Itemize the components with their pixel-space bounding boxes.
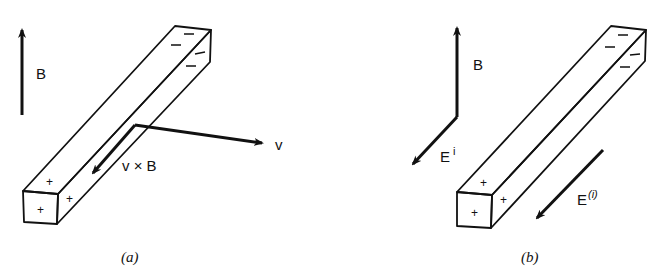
b-field-label: B: [473, 56, 483, 73]
negative-charges: [171, 34, 205, 66]
figure-canvas: B + + + v v × B (a): [0, 0, 661, 276]
velocity-label: v: [275, 136, 283, 153]
induced-field-bar-arrow-icon: [537, 150, 603, 218]
velocity-arrow-icon: [135, 125, 262, 143]
b-field-label: B: [36, 65, 46, 82]
conducting-bar: [23, 26, 211, 224]
induced-field-label: Ei: [440, 145, 455, 165]
negative-charges: [605, 35, 640, 67]
positive-charge: +: [500, 193, 507, 207]
positive-charge: +: [480, 176, 487, 190]
positive-charge: +: [46, 175, 53, 189]
panel-b: B Ei + + + E(i) (b): [413, 26, 646, 266]
panel-a: B + + + v v × B (a): [22, 26, 283, 266]
induced-field-bar-label: E(i): [577, 188, 598, 208]
panel-b-caption: (b): [521, 249, 539, 266]
induced-field-arrow-icon: [413, 117, 457, 164]
panel-a-caption: (a): [121, 249, 139, 266]
positive-charge: +: [471, 206, 478, 220]
positive-charge: +: [66, 192, 73, 206]
positive-charge: +: [37, 203, 44, 217]
conducting-bar: [457, 26, 646, 228]
v-cross-b-label: v × B: [122, 157, 157, 174]
